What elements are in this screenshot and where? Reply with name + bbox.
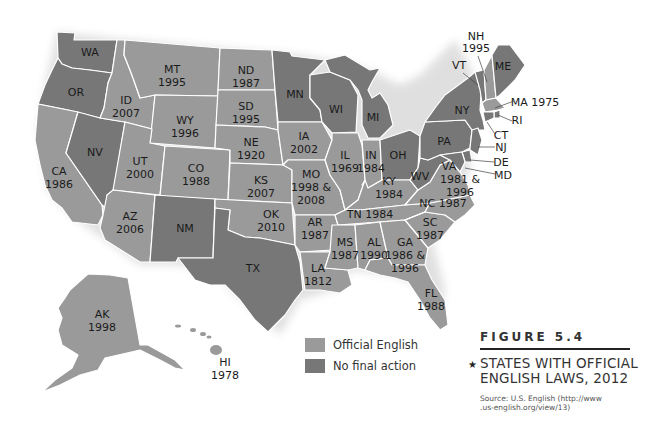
svg-text:1987: 1987 — [416, 229, 444, 242]
svg-text:SD: SD — [238, 100, 253, 113]
svg-text:ND: ND — [238, 64, 255, 77]
state-ma[interactable] — [482, 98, 505, 112]
svg-text:OK: OK — [263, 208, 280, 221]
svg-text:1988: 1988 — [182, 175, 210, 188]
svg-text:1986 &: 1986 & — [385, 249, 425, 262]
svg-text:KY: KY — [382, 175, 396, 188]
svg-text:1812: 1812 — [304, 275, 332, 288]
state-ri[interactable] — [494, 110, 500, 118]
svg-text:1988: 1988 — [417, 300, 445, 313]
svg-text:2000: 2000 — [126, 168, 154, 181]
svg-text:WI: WI — [329, 103, 343, 116]
figure-title-line1: STATES WITH OFFICIAL — [480, 356, 638, 371]
svg-text:MS: MS — [337, 236, 353, 249]
svg-text:FL: FL — [425, 287, 438, 300]
svg-text:1998 &: 1998 & — [291, 181, 331, 194]
svg-text:RI: RI — [512, 114, 523, 127]
svg-text:WY: WY — [176, 114, 194, 127]
svg-text:2010: 2010 — [257, 221, 285, 234]
svg-text:2007: 2007 — [112, 107, 140, 120]
svg-text:1996: 1996 — [171, 127, 199, 140]
svg-text:AL: AL — [367, 236, 382, 249]
figure-caption: FIGURE 5.4 ★ STATES WITH OFFICIAL ENGLIS… — [480, 330, 650, 412]
svg-text:NJ: NJ — [495, 141, 506, 154]
svg-text:UT: UT — [133, 155, 148, 168]
figure-title-line2: ENGLISH LAWS, 2012 — [480, 371, 638, 386]
svg-text:SC: SC — [423, 216, 438, 229]
state-hi[interactable] — [175, 325, 222, 356]
svg-text:1984: 1984 — [357, 162, 385, 175]
figure-number: FIGURE 5.4 — [480, 330, 630, 350]
svg-text:NY: NY — [455, 104, 470, 117]
svg-text:1984: 1984 — [375, 188, 403, 201]
svg-text:WV: WV — [411, 170, 430, 183]
svg-text:AZ: AZ — [122, 210, 138, 223]
svg-text:1995: 1995 — [232, 113, 260, 126]
svg-text:1996: 1996 — [391, 262, 419, 275]
state-ct[interactable] — [483, 112, 494, 122]
star-icon: ★ — [468, 359, 480, 386]
svg-text:1981 &: 1981 & — [440, 173, 480, 186]
svg-text:LA: LA — [311, 262, 325, 275]
map-legend: Official English No final action — [305, 335, 418, 377]
svg-text:1986: 1986 — [45, 178, 73, 191]
svg-text:MD: MD — [494, 169, 512, 182]
swatch-official-english — [305, 338, 325, 352]
svg-text:MA 1975: MA 1975 — [511, 96, 560, 109]
source-line1: Source: U.S. English (http://www — [480, 394, 650, 403]
state-nj[interactable] — [470, 128, 482, 155]
svg-text:NM: NM — [176, 222, 194, 235]
svg-text:1995: 1995 — [158, 76, 186, 89]
svg-text:MN: MN — [286, 88, 304, 101]
svg-text:1969: 1969 — [331, 162, 359, 175]
legend-label: No final action — [333, 359, 416, 373]
svg-text:2006: 2006 — [116, 223, 144, 236]
svg-text:1987: 1987 — [301, 229, 329, 242]
svg-text:NE: NE — [243, 136, 258, 149]
svg-text:1978: 1978 — [211, 369, 239, 382]
svg-text:1920: 1920 — [237, 149, 265, 162]
legend-label: Official English — [333, 338, 418, 352]
svg-text:TX: TX — [245, 262, 261, 275]
svg-text:TN 1984: TN 1984 — [346, 208, 393, 221]
legend-item-official-english: Official English — [305, 335, 418, 355]
figure-title: STATES WITH OFFICIAL ENGLISH LAWS, 2012 — [480, 356, 638, 386]
svg-text:CO: CO — [188, 162, 205, 175]
svg-text:ID: ID — [120, 94, 132, 107]
svg-text:VT: VT — [452, 59, 467, 72]
svg-text:OR: OR — [68, 86, 85, 99]
svg-text:1990: 1990 — [360, 249, 388, 262]
svg-text:AR: AR — [307, 216, 323, 229]
svg-text:MT: MT — [164, 63, 180, 76]
svg-text:WA: WA — [81, 46, 99, 59]
svg-text:PA: PA — [437, 135, 451, 148]
swatch-no-final-action — [305, 359, 325, 373]
svg-text:MI: MI — [367, 111, 380, 124]
svg-text:AK: AK — [95, 308, 111, 321]
svg-text:HI: HI — [219, 356, 231, 369]
svg-text:1998: 1998 — [88, 321, 116, 334]
svg-text:2002: 2002 — [290, 143, 318, 156]
svg-text:NV: NV — [87, 146, 103, 159]
svg-text:CA: CA — [51, 165, 67, 178]
legend-item-no-final-action: No final action — [305, 356, 418, 376]
svg-text:IL: IL — [340, 149, 350, 162]
svg-text:OH: OH — [390, 149, 407, 162]
svg-text:DE: DE — [493, 156, 508, 169]
svg-text:2008: 2008 — [297, 194, 325, 207]
svg-text:MO: MO — [302, 168, 320, 181]
svg-text:KS: KS — [254, 174, 268, 187]
source-line2: .us-english.org/view/13) — [480, 403, 650, 412]
svg-text:ME: ME — [495, 60, 511, 73]
svg-text:1987: 1987 — [331, 249, 359, 262]
svg-text:1996: 1996 — [446, 186, 474, 199]
svg-text:IA: IA — [299, 130, 310, 143]
figure-source: Source: U.S. English (http://www .us-eng… — [480, 394, 650, 412]
svg-text:1995: 1995 — [462, 42, 490, 55]
svg-text:1987: 1987 — [232, 77, 260, 90]
svg-text:VA: VA — [442, 160, 457, 173]
svg-text:IN: IN — [365, 149, 376, 162]
svg-text:2007: 2007 — [247, 187, 275, 200]
svg-text:GA: GA — [397, 236, 414, 249]
